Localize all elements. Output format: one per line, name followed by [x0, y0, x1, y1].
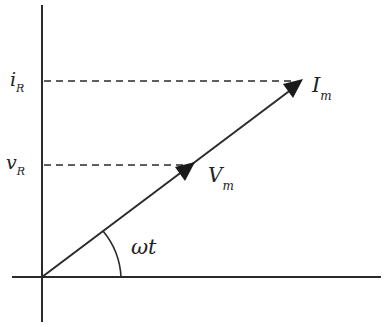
i-m-label: Im	[311, 73, 332, 103]
i-r-label: iR	[10, 68, 24, 95]
i-m-arrowhead-icon	[283, 79, 303, 98]
angle-arc	[103, 231, 121, 277]
v-m-label: Vm	[208, 163, 234, 193]
phasor-diagram: iR vR Im Vm ωt	[0, 0, 386, 327]
angle-label: ωt	[131, 235, 157, 259]
v-r-label: vR	[6, 151, 25, 178]
phasor-line	[42, 86, 296, 277]
